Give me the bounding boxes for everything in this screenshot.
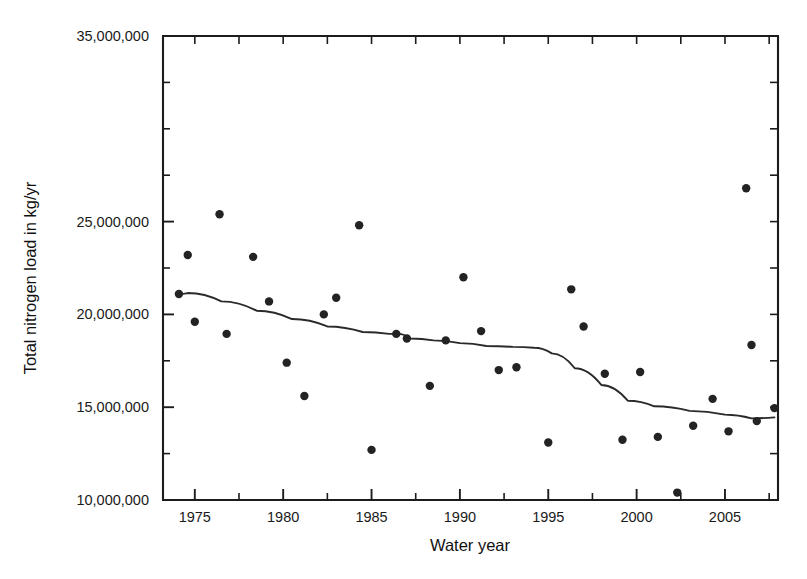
data-point	[689, 422, 697, 430]
data-point	[355, 221, 363, 229]
x-tick-label: 1975	[179, 509, 211, 525]
data-point	[601, 370, 609, 378]
x-tick-label: 1985	[355, 509, 387, 525]
data-point	[512, 363, 520, 371]
chart-figure: 10,000,00015,000,00020,000,00025,000,000…	[0, 0, 807, 579]
x-tick-label: 2000	[620, 509, 652, 525]
y-tick-label: 10,000,000	[76, 492, 149, 508]
data-point	[215, 210, 223, 218]
x-tick-label: 1995	[532, 509, 564, 525]
data-point	[770, 404, 778, 412]
data-point	[191, 318, 199, 326]
scatter-plot-canvas: 10,000,00015,000,00020,000,00025,000,000…	[0, 0, 807, 579]
data-point	[459, 273, 467, 281]
data-point	[442, 336, 450, 344]
data-point	[495, 366, 503, 374]
x-tick-label: 2005	[709, 509, 741, 525]
y-tick-label: 20,000,000	[76, 306, 149, 322]
data-point	[265, 297, 273, 305]
data-point	[403, 334, 411, 342]
data-point	[724, 427, 732, 435]
data-point	[283, 358, 291, 366]
data-point	[367, 446, 375, 454]
y-axis-title: Total nitrogen load in kg/yr	[21, 181, 39, 374]
data-point	[222, 330, 230, 338]
data-point	[175, 290, 183, 298]
data-point	[426, 382, 434, 390]
data-point	[618, 435, 626, 443]
data-point	[579, 322, 587, 330]
data-point	[747, 341, 755, 349]
data-point	[636, 368, 644, 376]
y-tick-label: 15,000,000	[76, 399, 149, 415]
data-point	[567, 285, 575, 293]
y-tick-label: 35,000,000	[76, 28, 149, 44]
data-point	[320, 310, 328, 318]
x-axis-title: Water year	[430, 536, 511, 554]
data-point	[392, 330, 400, 338]
data-point	[184, 251, 192, 259]
data-point	[477, 327, 485, 335]
data-point	[300, 392, 308, 400]
data-point	[544, 438, 552, 446]
data-point	[753, 417, 761, 425]
data-point	[654, 433, 662, 441]
x-tick-label: 1990	[444, 509, 476, 525]
data-point	[332, 294, 340, 302]
data-point	[249, 253, 257, 261]
data-point	[708, 395, 716, 403]
data-point	[742, 184, 750, 192]
y-tick-label: 25,000,000	[76, 214, 149, 230]
x-tick-label: 1980	[267, 509, 299, 525]
data-point	[673, 488, 681, 496]
